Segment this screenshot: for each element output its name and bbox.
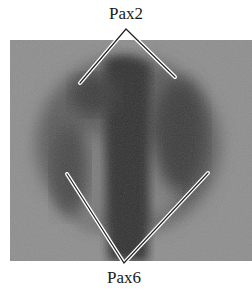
pax6-label: Pax6 [84, 268, 164, 288]
micrograph-panel [10, 40, 252, 261]
pax2-label: Pax2 [86, 4, 166, 24]
micrograph-image [10, 40, 252, 261]
